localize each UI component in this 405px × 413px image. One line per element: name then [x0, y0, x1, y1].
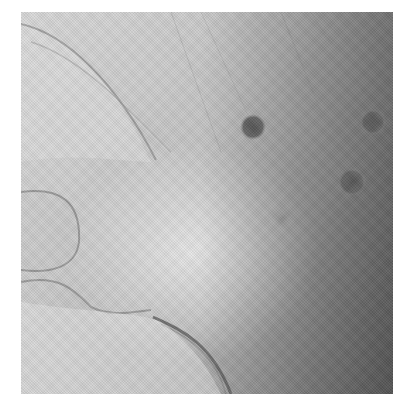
- marker-dot: [360, 109, 386, 135]
- radiograph-image: [21, 12, 393, 394]
- marker-dot-faint: [271, 206, 295, 230]
- radiograph-structures: [21, 12, 393, 394]
- marker-dot: [240, 114, 266, 140]
- marker-dot: [338, 168, 366, 196]
